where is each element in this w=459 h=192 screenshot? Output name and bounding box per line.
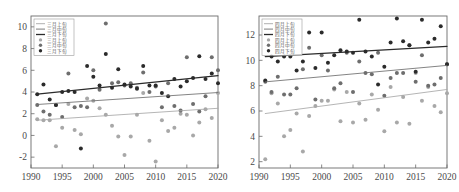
data-point [166,81,170,85]
data-point [160,118,164,122]
y-tick-label: 6 [22,66,27,76]
data-point [104,22,108,26]
data-point [60,126,64,130]
x-tick-label: 2005 [344,172,363,182]
data-point [79,104,83,108]
data-point [154,83,158,87]
data-point [141,70,145,74]
figure-container: -202468101990199520002005201020152020三月上… [0,0,459,192]
data-point [401,39,405,43]
data-point [407,43,411,47]
x-tick-label: 2015 [406,172,425,182]
x-tick-label: 2005 [115,172,134,182]
data-point [48,118,52,122]
data-point [401,71,405,75]
data-point [98,106,102,110]
data-point [197,110,201,114]
data-point [420,99,424,103]
data-point [91,75,95,79]
data-point [307,46,311,50]
data-point [338,81,342,85]
data-point [288,93,292,97]
data-point [364,118,368,122]
data-point [160,105,164,109]
trend-line [265,89,447,113]
data-point [216,91,220,95]
data-point [338,48,342,52]
y-tick-label: 10 [18,22,28,32]
data-point [91,68,95,72]
data-point [313,98,317,102]
data-point [104,52,108,56]
data-point [432,82,436,86]
y-tick-label: -2 [19,152,27,162]
x-tick-label: 2000 [84,172,103,182]
data-point [301,60,305,64]
data-point [351,120,355,124]
data-point [320,99,324,103]
data-point [376,82,380,86]
data-point [185,55,189,59]
data-point [54,144,58,148]
trend-line [265,65,447,81]
data-point [439,110,443,114]
data-point [338,119,342,123]
data-point [389,85,393,89]
data-point [185,79,189,83]
data-point [320,30,324,34]
data-point [129,135,133,139]
x-tick-label: 2010 [146,172,165,182]
data-point [116,135,120,139]
data-point [154,159,158,163]
data-point [141,91,145,95]
y-tick-label: 2 [22,109,27,119]
data-point [141,64,145,68]
data-point [204,94,208,98]
legend-marker-swatch [39,49,42,52]
y-tick-label: 2 [250,157,255,167]
data-point [357,18,361,22]
data-point [179,85,183,89]
data-point [110,124,114,128]
data-point [295,112,299,116]
data-point [85,105,89,109]
x-tick-label: 1995 [281,172,300,182]
data-point [276,75,280,79]
data-point [332,53,336,57]
data-point [370,55,374,59]
data-point [295,86,299,90]
data-point [210,72,214,76]
x-tick-label: 2020 [438,172,457,182]
data-point [263,157,267,161]
april-panel-svg: 246810121990199520002005201020152020四月上旬… [229,0,459,192]
data-point [191,102,195,106]
y-tick-label: 8 [22,44,27,54]
data-point [395,120,399,124]
data-point [370,93,374,97]
data-point [210,55,214,59]
data-point [172,126,176,130]
chart-panel-march: -202468101990199520002005201020152020三月上… [0,0,230,192]
data-point [332,86,336,90]
y-tick-label: 4 [250,132,255,142]
data-point [276,101,280,105]
data-point [420,18,424,22]
x-tick-label: 2015 [177,172,196,182]
data-point [216,68,220,72]
data-point [414,70,418,74]
y-tick-label: 0 [22,131,27,141]
data-point [345,90,349,94]
data-point [85,64,89,68]
data-point [147,139,151,143]
data-point [210,116,214,120]
data-point [147,83,151,87]
data-point [426,41,430,45]
y-tick-label: 12 [246,30,256,40]
data-point [166,129,170,133]
data-point [110,81,114,85]
data-point [270,90,274,94]
y-tick-label: 4 [22,87,27,97]
data-point [407,122,411,126]
trend-line [37,76,218,94]
data-point [395,71,399,75]
